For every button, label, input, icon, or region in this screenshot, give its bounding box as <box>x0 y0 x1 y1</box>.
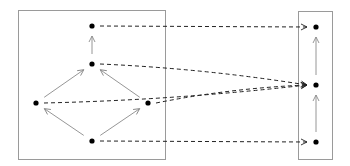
node-L-bottom <box>89 138 94 143</box>
dashed-arrow-L-bottom-R-bottom <box>100 141 307 142</box>
boxes-layer <box>19 11 333 160</box>
node-L-mid <box>89 61 94 66</box>
solid-arrow-L-left-L-mid <box>44 70 84 98</box>
node-R-bottom <box>313 139 318 144</box>
solid-edges-layer <box>44 36 316 135</box>
dashed-edges-layer <box>44 26 307 142</box>
left-box <box>19 11 166 160</box>
node-R-mid <box>313 82 318 87</box>
solid-arrow-L-right-L-mid <box>100 70 140 98</box>
solid-arrow-L-bottom-L-right <box>100 109 139 136</box>
node-L-right <box>145 100 150 105</box>
node-R-top <box>313 24 318 29</box>
dashed-arrow-L-mid-R-mid <box>100 64 307 85</box>
node-L-left <box>33 100 38 105</box>
nodes-layer <box>33 23 318 144</box>
dashed-arrow-L-top-R-top <box>100 26 307 27</box>
diagram-canvas <box>0 0 350 166</box>
solid-arrow-L-bottom-L-left <box>44 109 83 136</box>
node-L-top <box>89 23 94 28</box>
